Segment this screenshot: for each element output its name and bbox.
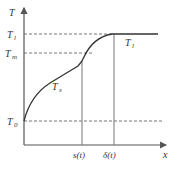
svg-text:0: 0 xyxy=(14,121,18,129)
x-axis-label: x xyxy=(162,149,168,160)
svg-text:T: T xyxy=(52,81,59,92)
svg-text:T: T xyxy=(7,116,14,127)
temperature-curve xyxy=(24,34,158,121)
svg-text:T: T xyxy=(7,29,14,40)
svg-text:s: s xyxy=(59,86,62,94)
curve-label-Ts: T s xyxy=(52,81,62,94)
svg-text:T: T xyxy=(125,37,132,48)
curve-label-Tl: T l xyxy=(125,37,134,50)
svg-text:l: l xyxy=(132,42,134,50)
x-mark-label-s: s(t) xyxy=(73,150,85,160)
y-axis-label: T xyxy=(9,7,16,18)
temperature-profile-diagram: T x T l T m T 0 s(t) δ(t) T s T l xyxy=(0,0,175,171)
svg-text:l: l xyxy=(14,34,16,42)
svg-text:m: m xyxy=(12,53,17,61)
level-label-Tm: T m xyxy=(5,48,17,61)
x-mark-label-delta: δ(t) xyxy=(103,150,116,160)
level-label-T0: T 0 xyxy=(7,116,18,129)
level-label-Tl: T l xyxy=(7,29,16,42)
svg-text:T: T xyxy=(5,48,12,59)
